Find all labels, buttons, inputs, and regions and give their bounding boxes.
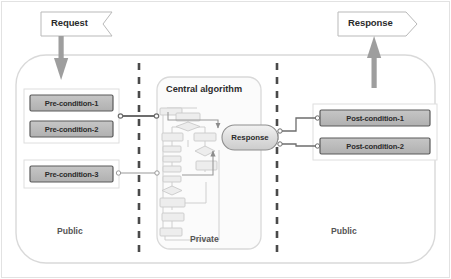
diagram-vector-layer [0,0,451,279]
response-node [222,125,278,150]
precondition-box-1 [30,95,113,111]
diagram-canvas: Request Response Pre-condition-1 Pre-con… [0,0,451,279]
postcondition-box-1 [320,110,430,126]
response-banner-shape [338,12,417,36]
precondition-box-3 [30,166,113,182]
postcondition-box-2 [320,138,430,154]
request-banner-shape [41,12,112,36]
precondition-box-2 [30,121,113,137]
